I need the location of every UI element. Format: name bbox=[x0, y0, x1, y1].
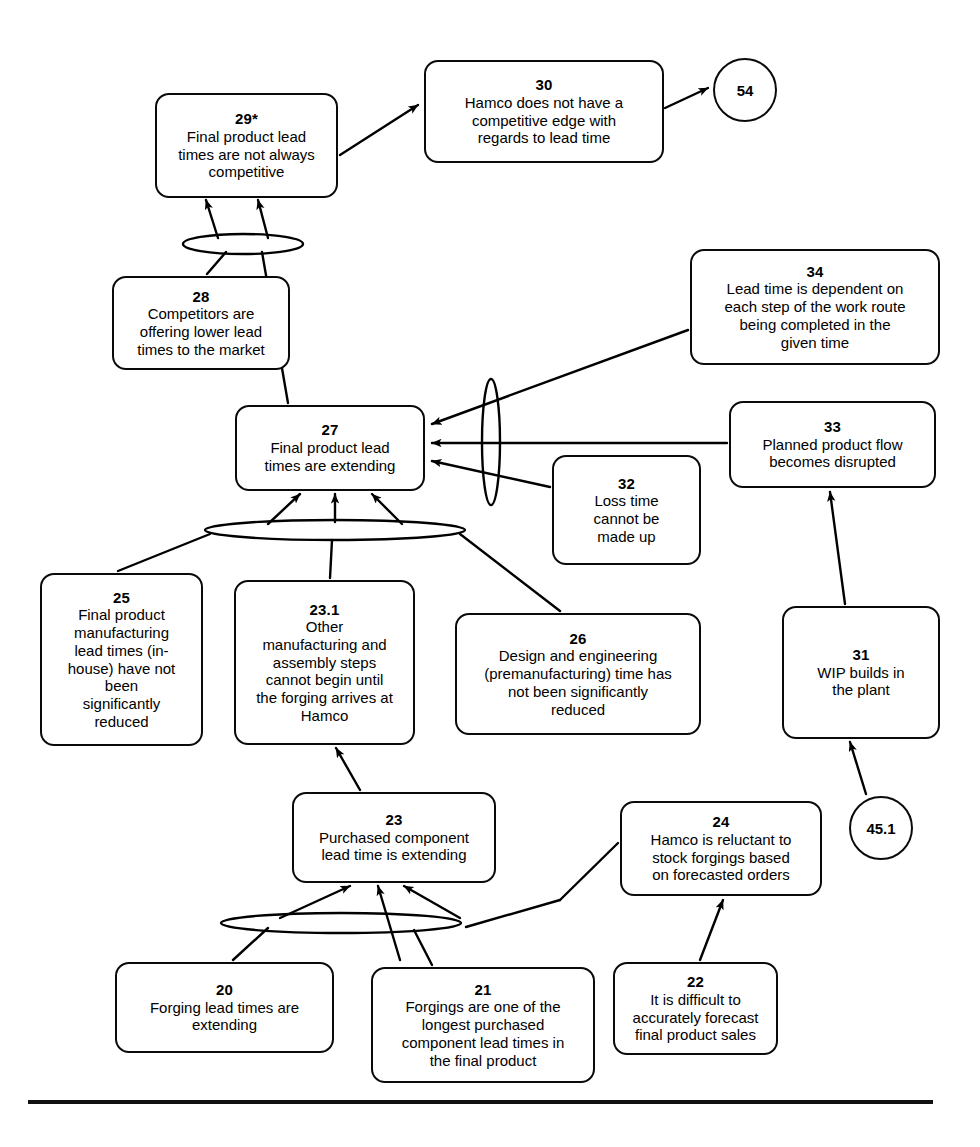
node-text: Forgings are one of the longest purchase… bbox=[402, 998, 565, 1069]
node-number: 31 bbox=[852, 646, 869, 664]
node-text: Competitors are offering lower lead time… bbox=[137, 305, 265, 358]
and-connector-23 bbox=[221, 913, 461, 933]
edge-and23-to-23-mid bbox=[378, 886, 400, 960]
edge-24-and23-jog bbox=[466, 900, 560, 927]
node-text: Final product manufacturing lead times (… bbox=[68, 606, 176, 730]
edge-20-to-and23 bbox=[233, 928, 268, 960]
edge-24-to-and23 bbox=[560, 843, 618, 900]
node-text: Final product lead times are not always … bbox=[178, 128, 315, 181]
edge-32-to-27 bbox=[432, 461, 550, 487]
edge-34-to-27 bbox=[432, 330, 688, 424]
node-number: 26 bbox=[569, 630, 586, 648]
entity-node-32[interactable]: 32 Loss time cannot be made up bbox=[552, 455, 701, 565]
entity-node-31[interactable]: 31 WIP builds in the plant bbox=[782, 606, 940, 739]
edge-26-to-and27 bbox=[460, 534, 560, 611]
entity-node-23[interactable]: 23 Purchased component lead time is exte… bbox=[292, 792, 496, 883]
node-number: 33 bbox=[824, 418, 841, 436]
edge-and23-to-23-right bbox=[404, 886, 460, 918]
node-number: 54 bbox=[737, 82, 754, 99]
entity-node-27[interactable]: 27 Final product lead times are extendin… bbox=[235, 405, 425, 491]
entity-node-29[interactable]: 29* Final product lead times are not alw… bbox=[155, 93, 338, 198]
node-text: Forging lead times are extending bbox=[150, 999, 299, 1034]
node-text: Purchased component lead time is extendi… bbox=[319, 829, 469, 864]
node-number: 32 bbox=[618, 475, 635, 493]
edge-23-to-23-1 bbox=[336, 748, 360, 790]
edge-30-to-54 bbox=[665, 88, 708, 108]
and-connector-27-bottom bbox=[205, 520, 465, 540]
node-text: It is difficult to accurately forecast f… bbox=[633, 991, 759, 1044]
diagram-canvas: 29* Final product lead times are not alw… bbox=[0, 0, 980, 1147]
edge-and23-to-23-left bbox=[280, 886, 350, 918]
node-text: Design and engineering (premanufacturing… bbox=[484, 647, 672, 718]
node-number: 34 bbox=[806, 263, 823, 281]
edge-and27-to-27-right bbox=[372, 494, 402, 524]
connector-node-54[interactable]: 54 bbox=[713, 58, 777, 122]
edge-21-to-and23 bbox=[414, 930, 432, 965]
node-text: Hamco does not have a competitive edge w… bbox=[465, 94, 623, 147]
edge-and27-to-27-left bbox=[268, 494, 300, 524]
node-number: 45.1 bbox=[866, 820, 895, 837]
node-number: 27 bbox=[321, 421, 338, 439]
edge-31-to-33 bbox=[830, 492, 845, 604]
node-number: 23 bbox=[385, 811, 402, 829]
node-number: 29* bbox=[235, 110, 258, 128]
entity-node-25[interactable]: 25 Final product manufacturing lead time… bbox=[40, 573, 203, 746]
entity-node-23-1[interactable]: 23.1 Other manufacturing and assembly st… bbox=[234, 580, 415, 745]
node-number: 25 bbox=[113, 589, 130, 607]
node-text: Planned product flow becomes disrupted bbox=[762, 436, 902, 471]
node-number: 20 bbox=[216, 981, 233, 999]
node-text: Other manufacturing and assembly steps c… bbox=[256, 618, 393, 724]
entity-node-24[interactable]: 24 Hamco is reluctant to stock forgings … bbox=[620, 801, 822, 896]
node-text: Final product lead times are extending bbox=[265, 439, 396, 474]
edge-23-1-to-and27 bbox=[330, 540, 332, 578]
edge-and29-to-29-right bbox=[258, 200, 268, 238]
node-number: 24 bbox=[712, 813, 729, 831]
entity-node-33[interactable]: 33 Planned product flow becomes disrupte… bbox=[729, 401, 936, 488]
node-number: 22 bbox=[687, 973, 704, 991]
entity-node-28[interactable]: 28 Competitors are offering lower lead t… bbox=[112, 276, 290, 370]
edge-28-to-and29 bbox=[207, 252, 226, 274]
page-footer-rule bbox=[28, 1100, 933, 1104]
entity-node-34[interactable]: 34 Lead time is dependent on each step o… bbox=[690, 249, 940, 365]
entity-node-20[interactable]: 20 Forging lead times are extending bbox=[115, 962, 334, 1053]
node-number: 21 bbox=[474, 981, 491, 999]
and-connector-27-right bbox=[482, 379, 500, 505]
node-text: Lead time is dependent on each step of t… bbox=[725, 280, 906, 351]
node-number: 28 bbox=[192, 288, 209, 306]
edge-22-to-24 bbox=[700, 900, 723, 960]
entity-node-26[interactable]: 26 Design and engineering (premanufactur… bbox=[455, 613, 701, 735]
node-number: 23.1 bbox=[310, 601, 340, 619]
edge-29-to-30 bbox=[340, 105, 418, 155]
node-text: WIP builds in the plant bbox=[817, 664, 904, 699]
edge-25-to-and27 bbox=[118, 534, 210, 571]
and-connector-29 bbox=[183, 234, 303, 254]
entity-node-30[interactable]: 30 Hamco does not have a competitive edg… bbox=[424, 60, 664, 163]
edge-45-1-to-31 bbox=[850, 742, 866, 794]
node-text: Hamco is reluctant to stock forgings bas… bbox=[651, 831, 792, 884]
node-number: 30 bbox=[535, 76, 552, 94]
connector-node-45-1[interactable]: 45.1 bbox=[849, 796, 913, 860]
entity-node-21[interactable]: 21 Forgings are one of the longest purch… bbox=[371, 967, 595, 1083]
entity-node-22[interactable]: 22 It is difficult to accurately forecas… bbox=[613, 962, 778, 1055]
node-text: Loss time cannot be made up bbox=[594, 492, 660, 545]
edge-and29-to-29-left bbox=[206, 200, 218, 238]
